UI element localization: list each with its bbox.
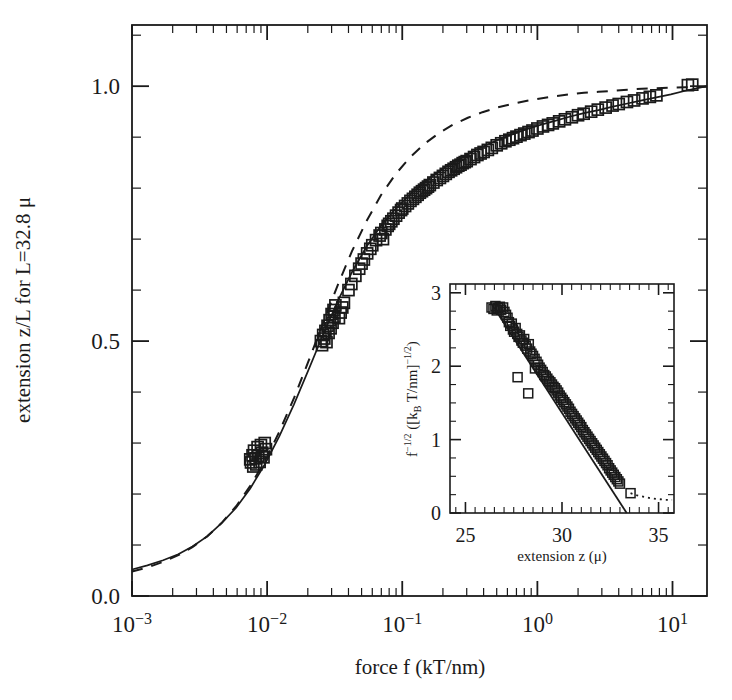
x-axis-label: force f (kT/nm) [355, 655, 486, 679]
inset-y-tick-label-1: 1 [431, 429, 441, 451]
y-axis-label: extension z/L for L=32.8 μ [11, 197, 35, 423]
figure-container: 10−310−210−11001010.00.51.0 force f (kT/… [0, 0, 732, 700]
y-tick-label-0: 0.0 [91, 584, 120, 609]
inset-x-tick-label-2: 35 [649, 524, 669, 546]
inset-background [450, 284, 674, 513]
y-tick-label-1: 0.5 [91, 329, 120, 354]
inset-y-tick-label-2: 2 [431, 355, 441, 377]
inset-x-tick-label-0: 25 [455, 524, 475, 546]
inset-x-axis-label: extension z (μ) [517, 548, 607, 565]
inset-x-tick-label-1: 30 [552, 524, 572, 546]
y-tick-label-2: 1.0 [91, 74, 120, 99]
force-extension-figure: 10−310−210−11001010.00.51.0 force f (kT/… [0, 0, 732, 700]
inset-y-tick-label-3: 3 [431, 282, 441, 304]
inset-y-tick-label-0: 0 [431, 502, 441, 524]
